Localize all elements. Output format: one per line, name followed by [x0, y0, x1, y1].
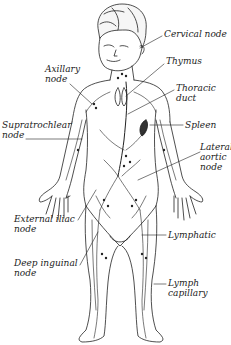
leader-thymus — [126, 64, 164, 96]
label-spleen: Spleen — [185, 120, 216, 130]
lymphatic-system-diagram: Cervical node Thymus Axillary node Thora… — [0, 0, 231, 345]
hair — [98, 4, 146, 48]
groin — [86, 206, 156, 246]
thymus-organ — [115, 88, 127, 106]
label-lymphatic: Lymphatic — [168, 230, 216, 240]
thoracic-duct-vessel — [118, 82, 127, 176]
label-thoracic-duct: Thoracic duct — [176, 83, 216, 103]
label-lateral-aortic-node: Lateral aortic node — [200, 142, 231, 172]
label-cervical-node: Cervical node — [164, 29, 227, 39]
label-external-iliac-node: External iliac node — [14, 214, 75, 234]
leader-deep-inguinal-node — [80, 232, 98, 265]
right-hand — [174, 196, 196, 220]
label-axillary-node: Axillary node — [45, 64, 80, 84]
label-supratrochlear-node: Supratrochlear node — [2, 120, 71, 140]
leader-thoracic-duct — [128, 90, 174, 114]
label-deep-inguinal-node: Deep inguinal node — [14, 258, 78, 278]
label-lymph-capillary: Lymph capillary — [168, 278, 208, 298]
face — [99, 38, 142, 71]
lymph-vessel-network — [66, 92, 176, 338]
label-thymus: Thymus — [166, 56, 202, 66]
spleen-organ — [140, 120, 148, 136]
right-leg — [122, 206, 163, 342]
left-leg — [79, 206, 118, 342]
leader-axillary-node — [70, 84, 92, 104]
lymph-nodes — [77, 73, 165, 259]
